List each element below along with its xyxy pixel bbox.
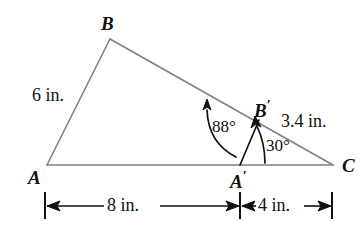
angle-30-marker <box>251 116 265 163</box>
vertex-label-b-prime: B′ <box>254 98 271 120</box>
vertex-label-a: A <box>28 168 41 187</box>
vertex-label-b-prime-mark: ′ <box>267 97 271 113</box>
dimension-label-4in: 4 in. <box>258 196 290 214</box>
angle-88-arrowhead <box>203 99 211 110</box>
side-label-ab: 6 in. <box>32 86 64 104</box>
side-label-a-prime-b-prime: 3.4 in. <box>281 112 327 130</box>
vertex-label-a-prime-letter: A <box>230 171 243 192</box>
vertex-label-a-prime-mark: ′ <box>243 168 247 184</box>
geometry-figure: B A C A′ B′ 6 in. 3.4 in. 88° 30° 8 in. … <box>0 0 364 227</box>
angle-30-arc <box>257 126 265 163</box>
dimension-label-8in: 8 in. <box>107 196 139 214</box>
vertex-label-b: B <box>101 14 114 33</box>
vertex-label-a-prime: A′ <box>230 169 247 191</box>
triangle-abc <box>47 39 333 165</box>
segment-a-prime-b-prime <box>240 120 259 165</box>
triangle-a-prime-b-prime-c <box>240 120 259 165</box>
dimension-8in <box>45 192 239 219</box>
angle-label-88: 88° <box>212 118 236 135</box>
angle-label-30: 30° <box>266 137 290 154</box>
vertex-label-b-prime-letter: B <box>254 100 267 121</box>
vertex-label-c: C <box>342 156 355 175</box>
